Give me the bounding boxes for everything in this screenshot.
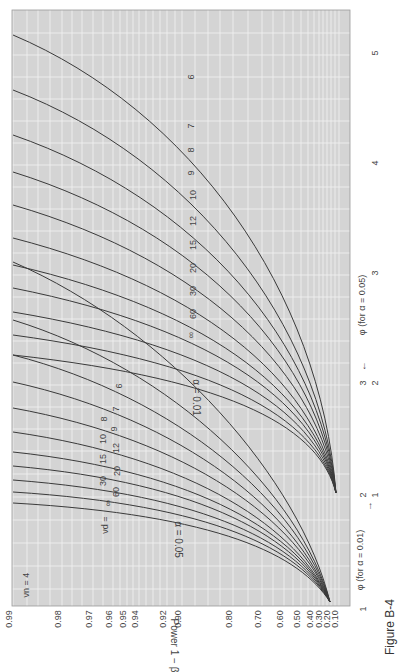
power-axis-title: Power 1 − β: [169, 619, 180, 672]
curve-label-12-005: 12: [111, 443, 121, 453]
curve-label-6-001: 6: [186, 74, 196, 79]
curve-label-8-001: 8: [186, 147, 196, 152]
phi-001-axis-title: φ (for α = 0.01): [355, 530, 365, 590]
power-tick: 0.99: [4, 610, 14, 628]
curve-label-60-001: 60: [188, 309, 198, 319]
power-tick: 0.60: [275, 610, 285, 628]
figure-caption: Figure B-4: [383, 599, 397, 655]
curve-label-30-001: 30: [188, 286, 198, 296]
phi-tick-2-1: 2: [358, 492, 368, 497]
curve-label-10-001: 10: [188, 190, 198, 200]
alpha-005-label: α = 0.05: [173, 521, 184, 558]
phi-tick-1-2: 1: [370, 492, 380, 497]
curve-label-inf-005: ∞: [103, 500, 113, 506]
phi-tick-3-001: 3: [358, 380, 368, 385]
power-tick: 0.92: [158, 610, 168, 628]
curve-label-7-001: 7: [186, 123, 196, 128]
nu-n-label: νn = 4: [21, 573, 31, 598]
curve-label-12-001: 12: [188, 216, 198, 226]
curve-label-60-005: 60: [111, 487, 121, 497]
curve-label-7-005: 7: [111, 406, 121, 411]
curve-label-9-001: 9: [186, 170, 196, 175]
power-tick: 0.10: [330, 610, 340, 628]
alpha-001-label: α = 0.01: [191, 379, 202, 416]
power-tick: 0.96: [104, 610, 114, 628]
phi-005-axis-title: φ (for α = 0.05): [357, 275, 367, 335]
curve-label-20-001: 20: [188, 263, 198, 273]
arrow-005: ↓: [362, 360, 367, 371]
curve-label-15-001: 15: [188, 240, 198, 250]
phi-tick-5-005: 5: [370, 50, 380, 55]
power-tick: 0.94: [130, 610, 140, 628]
phi-tick-4-005: 4: [370, 160, 380, 165]
curve-label-20-005: 20: [112, 466, 122, 476]
power-tick: 0.97: [84, 610, 94, 628]
phi-tick-3-005: 3: [370, 270, 380, 275]
nu-d-label: νd =: [100, 516, 110, 533]
phi-001-tick-1: 1: [358, 606, 368, 611]
curve-label-6-005: 6: [114, 383, 124, 388]
curve-label-10-005: 10: [98, 434, 108, 444]
power-tick: 0.70: [253, 610, 263, 628]
power-tick: 0.95: [118, 610, 128, 628]
curve-label-9-005: 9: [109, 426, 119, 431]
curve-label-15-005: 15: [98, 454, 108, 464]
arrow-001: ↑: [368, 500, 373, 511]
curve-label-30-005: 30: [98, 476, 108, 486]
power-tick: 0.98: [53, 610, 63, 628]
power-tick: 0.50: [292, 610, 302, 628]
phi-tick-2-005: 2: [370, 380, 380, 385]
power-tick: 0.80: [224, 610, 234, 628]
curve-label-8-005: 8: [99, 416, 109, 421]
curve-label-inf-001: ∞: [186, 332, 196, 338]
